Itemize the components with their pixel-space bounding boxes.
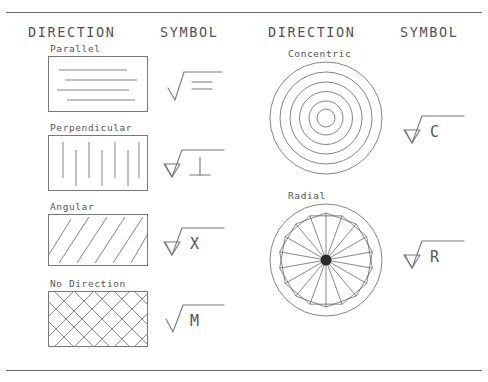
concentric-circles-figure — [268, 60, 384, 176]
symbol-parallel — [166, 66, 226, 106]
pattern-box-parallel — [48, 56, 148, 112]
diagonal-lines-icon — [49, 215, 147, 265]
row-label-parallel: Parallel — [50, 43, 101, 54]
row-label-no-direction: No Direction — [50, 278, 126, 289]
vertical-lines-icon — [49, 136, 147, 190]
radial-rosette-figure — [268, 202, 384, 318]
pattern-box-angular — [48, 214, 148, 266]
row-label-perpendicular: Perpendicular — [50, 122, 132, 133]
drawing-sheet: DIRECTION SYMBOL DIRECTION SYMBOL Parall… — [0, 0, 488, 382]
header-symbol-left: SYMBOL — [160, 24, 218, 40]
row-label-concentric: Concentric — [288, 48, 351, 59]
horizontal-lines-icon — [49, 57, 147, 111]
header-direction-right: DIRECTION — [268, 24, 356, 40]
row-label-angular: Angular — [50, 201, 94, 212]
crosshatch-icon — [49, 292, 147, 346]
symbol-perpendicular — [164, 144, 230, 186]
pattern-box-perpendicular — [48, 135, 148, 191]
symbol-angular: X — [164, 220, 230, 262]
symbol-no-direction: M — [164, 297, 230, 339]
concentric-circles-icon — [268, 60, 384, 176]
symbol-radial: R — [404, 233, 470, 275]
header-direction-left: DIRECTION — [28, 24, 116, 40]
bottom-border-rule — [6, 370, 482, 371]
top-border-rule — [6, 12, 482, 13]
header-symbol-right: SYMBOL — [400, 24, 458, 40]
row-label-radial: Radial — [288, 190, 326, 201]
symbol-angular-letter: X — [190, 235, 199, 253]
symbol-concentric: C — [404, 108, 470, 150]
symbol-concentric-letter: C — [430, 123, 439, 141]
symbol-radial-letter: R — [430, 248, 440, 266]
symbol-no-direction-letter: M — [190, 312, 199, 330]
radial-rosette-icon — [268, 202, 384, 318]
pattern-box-no-direction — [48, 291, 148, 347]
